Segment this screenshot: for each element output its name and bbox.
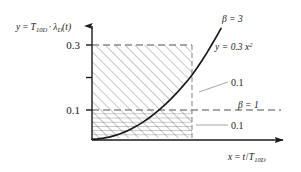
y-axis-title: y=T10D·λD(t): [15, 22, 71, 33]
x-axis-title-sub: 10D: [254, 156, 266, 163]
figure-container: 0.3 0.1 y=T10D·λD(t) x=t/T10D β = 3 y=0.…: [0, 0, 301, 172]
y-tick-label-0-3: 0.3: [66, 39, 80, 51]
callout-label-upper: 0.1: [231, 77, 244, 88]
callout-leader-upper: [199, 82, 228, 92]
y-axis-title-arg: (t): [62, 22, 71, 33]
annotation-curve-equation: y=0.3x2: [214, 41, 253, 52]
curve-eq-coef: 0.3: [231, 42, 243, 52]
y-axis-title-eq: =: [23, 22, 28, 32]
y-axis-title-sub1: 10D: [36, 26, 48, 33]
y-tick-label-0-1: 0.1: [66, 104, 80, 116]
x-axis-title-eq: =: [235, 152, 240, 162]
y-axis: [86, 26, 92, 140]
annotation-beta-3: β = 3: [221, 14, 243, 24]
curve-eq-exp: 2: [249, 41, 253, 48]
annotation-beta-1: β = 1: [237, 100, 259, 110]
curve-eq-lead: y: [214, 42, 220, 52]
y-axis-title-var: y: [15, 22, 21, 32]
callout-label-lower: 0.1: [231, 120, 244, 131]
chart-svg: 0.3 0.1 y=T10D·λD(t) x=t/T10D β = 3 y=0.…: [0, 0, 301, 172]
curve-eq-eq: =: [222, 42, 228, 52]
x-axis-title-var: x: [227, 152, 233, 162]
y-axis-title-dot: ·: [49, 22, 52, 32]
x-axis-title: x=t/T10D: [227, 152, 266, 163]
